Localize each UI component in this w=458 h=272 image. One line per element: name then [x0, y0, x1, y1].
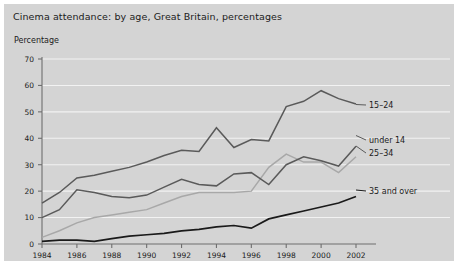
x-axis-tick-label: 1986	[67, 251, 86, 260]
y-axis-tick-label: 50	[24, 108, 34, 117]
series-line-15-24	[42, 91, 356, 203]
y-axis-tick-label: 20	[24, 187, 34, 196]
leader-line-series-25-34	[356, 146, 366, 153]
series-label-series-25-34: 25–34	[369, 149, 393, 158]
series-label-series-15-24: 15–24	[369, 101, 393, 110]
x-axis-tick-label: 1998	[277, 251, 296, 260]
x-axis-tick-label: 1996	[242, 251, 261, 260]
series-label-series-under-14: under 14	[369, 136, 405, 145]
y-axis-tick-label: 40	[24, 134, 34, 143]
series-label-series-35-over: 35 and over	[369, 187, 418, 196]
leader-line-series-15-24	[356, 105, 366, 106]
y-axis-tick-label: 10	[24, 213, 34, 222]
series-labels-group: 15–24under 1425–3435 and over	[369, 101, 418, 196]
line-chart-plot: 010203040506070 198419861988199019921994…	[4, 4, 454, 261]
series-leader-lines-group	[356, 105, 366, 192]
series-line-under-14	[42, 154, 356, 237]
chart-screenshot: Cinema attendance: by age, Great Britain…	[0, 0, 458, 272]
y-axis-tick-label: 60	[24, 81, 34, 90]
y-axis-ticks-group: 010203040506070	[24, 55, 42, 249]
chart-panel: Cinema attendance: by age, Great Britain…	[4, 4, 454, 261]
x-axis-ticks-group: 1984198619881990199219941996199820002002	[32, 244, 365, 260]
x-axis-tick-label: 1994	[207, 251, 226, 260]
x-axis-tick-label: 1984	[32, 251, 51, 260]
x-axis-tick-label: 1992	[172, 251, 191, 260]
data-series-group	[42, 91, 356, 242]
y-axis-tick-label: 30	[24, 161, 34, 170]
x-axis-tick-label: 2002	[346, 251, 365, 260]
x-axis-tick-label: 2000	[312, 251, 331, 260]
x-axis-tick-label: 1990	[137, 251, 156, 260]
y-axis-tick-label: 0	[29, 240, 34, 249]
series-line-25-34	[42, 146, 356, 217]
x-axis-tick-label: 1988	[102, 251, 121, 260]
y-axis-tick-label: 70	[24, 55, 34, 64]
